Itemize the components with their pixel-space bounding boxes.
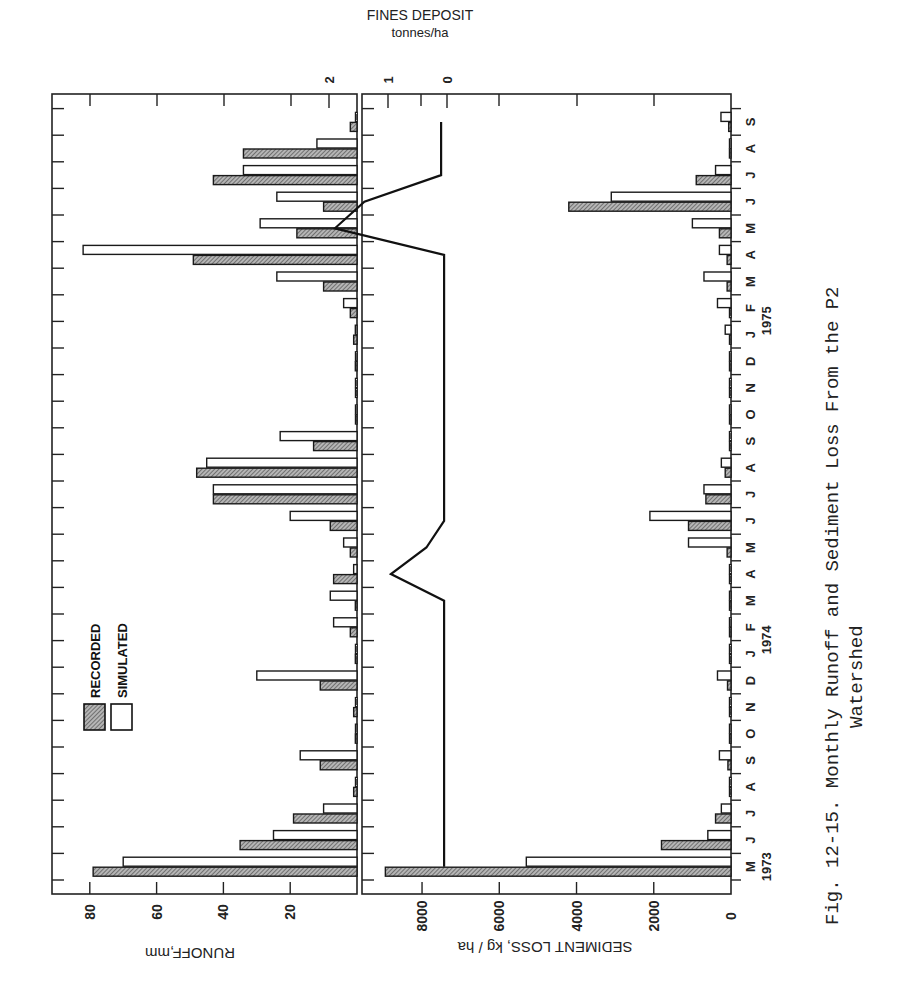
simulated-bar [277,272,357,281]
simulated-bar [721,804,731,813]
simulated-bar [356,724,358,733]
recorded-bar [706,495,731,504]
chart-frame [52,94,731,894]
month-label: M [743,595,758,606]
recorded-bar [350,122,357,131]
legend-swatch-simulated [111,704,132,730]
recorded-bar [661,841,731,850]
legend-label-recorded: RECORDED [88,624,103,698]
recorded-bar [197,468,357,477]
simulated-bar [730,139,732,148]
simulated-bar [730,378,732,387]
simulated-bar [274,831,358,840]
recorded-bar [240,841,357,850]
recorded-bar [320,761,357,770]
month-label: F [743,623,758,631]
legend-swatch-recorded [84,704,105,730]
fines-axis-units: tonnes/ha [391,25,449,40]
simulated-bar [704,485,731,494]
month-label: M [743,223,758,234]
recorded-bar [320,681,357,690]
simulated-bar [317,139,357,148]
runoff-axis-title: RUNOFF,mm [145,945,235,962]
recorded-bar [324,202,357,211]
year-label: 1975 [759,306,774,335]
year-label: 1973 [759,852,774,881]
sediment-axis-title: SEDIMENT LOSS, kg / ha [457,939,632,956]
month-label: S [743,436,758,445]
recorded-bar [728,761,731,770]
month-label: J [743,198,758,205]
simulated-bar [356,644,358,653]
runoff-tick-label: 40 [215,904,231,920]
recorded-bar [716,814,731,823]
recorded-bar [730,601,732,610]
recorded-bar [354,708,357,717]
simulated-bar [717,299,731,308]
simulated-bar [355,325,357,334]
recorded-bar [730,415,732,424]
recorded-bar [294,814,357,823]
simulated-bar [356,378,358,387]
simulated-bar [708,831,731,840]
recorded-bar [696,176,731,185]
sediment-tick-label: 2000 [646,900,662,931]
recorded-bar [725,468,731,477]
month-label: S [743,117,758,126]
simulated-bar [356,405,358,414]
recorded-bar [730,362,732,371]
recorded-bar [729,122,731,131]
month-label: J [743,331,758,338]
sediment-tick-label: 6000 [491,900,507,931]
recorded-bar [356,415,358,424]
legend: RECORDEDSIMULATED [84,623,132,730]
simulated-bar [356,352,358,361]
month-label: J [743,171,758,178]
recorded-bar [355,362,357,371]
simulated-bar [721,458,731,467]
recorded-bar [730,388,732,397]
recorded-bar [730,734,732,743]
sediment-panel [362,94,731,894]
simulated-bar [344,299,357,308]
recorded-bar [324,282,357,291]
simulated-bar [730,432,732,441]
simulated-bar [344,538,357,547]
simulated-bar [730,352,732,361]
simulated-bar [730,698,732,707]
simulated-bar [330,591,357,600]
recorded-bar [719,229,731,238]
recorded-bar [297,229,357,238]
recorded-bar [385,867,731,876]
runoff-tick-label: 60 [149,904,165,920]
simulated-bar [719,751,731,760]
month-label: N [743,383,758,392]
fines-tick-label: 2 [322,76,337,83]
month-label: F [743,304,758,312]
recorded-bar [243,149,357,158]
recorded-bar [727,255,731,264]
simulated-bar [692,219,731,228]
simulated-bar [324,804,357,813]
recorded-bar [350,628,357,637]
recorded-bar [730,335,732,344]
recorded-bar [355,734,357,743]
simulated-bar [717,671,731,680]
fines-tick-label: 0 [440,76,455,83]
sediment-tick-label: 0 [723,912,739,920]
simulated-bar [730,405,732,414]
month-label: M [743,861,758,872]
simulated-bar [730,777,732,786]
simulated-bar [257,671,357,680]
runoff-sediment-chart: MJJASONDJFMAMJJASONDJFMAMJJAS19731974197… [0,0,902,996]
month-label: D [743,357,758,366]
sediment-tick-label: 4000 [569,900,585,931]
month-label: O [743,409,758,419]
simulated-bar [354,565,357,574]
month-label: A [743,782,758,792]
simulated-bar [721,112,731,121]
month-label: J [743,517,758,524]
month-label: J [743,810,758,817]
simulated-bar [730,644,732,653]
simulated-bar [290,511,357,520]
